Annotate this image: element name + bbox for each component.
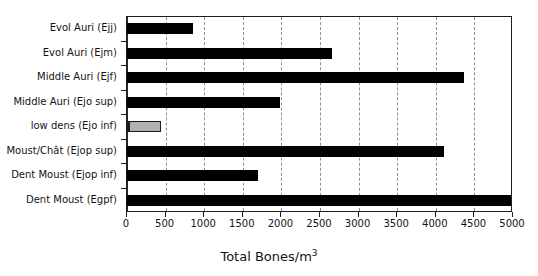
bar-1 <box>127 48 332 59</box>
x-tick-label-0: 0 <box>123 218 129 230</box>
bar-series <box>127 17 511 211</box>
y-axis-tick-1 <box>121 41 126 42</box>
x-tick-5000 <box>512 212 513 217</box>
x-tick-label-1000: 1000 <box>190 218 215 230</box>
x-tick-label-2000: 2000 <box>268 218 293 230</box>
x-tick-0 <box>126 212 127 217</box>
category-label-4: low dens (Ejo inf) <box>31 120 117 131</box>
bar-0 <box>127 23 193 34</box>
plot-area <box>126 16 512 212</box>
bar-row <box>127 72 511 83</box>
bar-6 <box>127 170 258 181</box>
x-axis-title-exponent: 3 <box>312 248 318 258</box>
bar-7 <box>127 195 511 206</box>
bar-chart: Evol Auri (Ejj)Evol Auri (Ejm)Middle Aur… <box>0 0 538 276</box>
x-tick-label-1500: 1500 <box>229 218 254 230</box>
category-label-5: Moust/Chât (Ejop sup) <box>6 145 117 156</box>
bar-row <box>127 170 511 181</box>
y-axis-tick-6 <box>121 163 126 164</box>
x-tick-label-3000: 3000 <box>345 218 370 230</box>
category-label-2: Middle Auri (Ejf) <box>37 71 117 82</box>
x-tick-label-5000: 5000 <box>499 218 524 230</box>
x-axis-title: Total Bones/m3 <box>0 248 538 264</box>
x-tick-4500 <box>473 212 474 217</box>
x-tick-label-3500: 3500 <box>383 218 408 230</box>
x-tick-4000 <box>435 212 436 217</box>
x-tick-label-500: 500 <box>155 218 174 230</box>
x-tick-3000 <box>358 212 359 217</box>
category-axis-labels: Evol Auri (Ejj)Evol Auri (Ejm)Middle Aur… <box>0 16 122 212</box>
x-tick-1000 <box>203 212 204 217</box>
bar-2 <box>127 72 464 83</box>
bar-3 <box>127 97 280 108</box>
category-label-6: Dent Moust (Ejop inf) <box>11 169 117 180</box>
bar-row <box>127 48 511 59</box>
category-label-7: Dent Moust (Egpf) <box>26 194 117 205</box>
x-tick-500 <box>165 212 166 217</box>
x-tick-label-4500: 4500 <box>461 218 486 230</box>
bar-row <box>127 121 511 132</box>
bar-row <box>127 97 511 108</box>
bar-4 <box>127 121 161 132</box>
y-axis-tick-3 <box>121 90 126 91</box>
x-tick-2000 <box>280 212 281 217</box>
bar-row <box>127 146 511 157</box>
x-tick-label-2500: 2500 <box>306 218 331 230</box>
bar-row <box>127 23 511 34</box>
category-label-0: Evol Auri (Ejj) <box>50 22 117 33</box>
category-label-1: Evol Auri (Ejm) <box>43 47 117 58</box>
x-tick-1500 <box>242 212 243 217</box>
y-axis-tick-5 <box>121 139 126 140</box>
x-axis-title-base: Total Bones/m <box>220 249 311 264</box>
y-axis-tick-4 <box>121 114 126 115</box>
y-axis-tick-7 <box>121 188 126 189</box>
bar-5 <box>127 146 444 157</box>
y-axis-tick-2 <box>121 65 126 66</box>
x-tick-label-4000: 4000 <box>422 218 447 230</box>
bar-row <box>127 195 511 206</box>
x-axis-tick-labels: 0500100015002000250030003500400045005000 <box>0 218 538 234</box>
x-tick-2500 <box>319 212 320 217</box>
x-tick-3500 <box>396 212 397 217</box>
category-label-3: Middle Auri (Ejo sup) <box>13 96 117 107</box>
